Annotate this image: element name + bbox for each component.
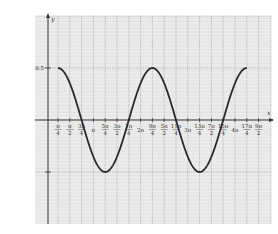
svg-text:4: 4 — [245, 130, 249, 136]
svg-text:4π: 4π — [231, 127, 238, 133]
svg-text:5π: 5π — [161, 123, 168, 129]
x-axis-label: x — [267, 109, 271, 117]
svg-text:π: π — [68, 123, 72, 129]
x-axis-arrow-icon — [269, 118, 274, 122]
svg-text:2: 2 — [210, 130, 214, 136]
svg-text:3π: 3π — [184, 127, 191, 133]
y-axis-label: y — [50, 15, 55, 23]
svg-text:9π: 9π — [149, 123, 156, 129]
svg-text:3π: 3π — [113, 123, 120, 129]
svg-text:13π: 13π — [194, 123, 205, 129]
svg-text:2: 2 — [162, 130, 166, 136]
svg-text:2: 2 — [68, 130, 72, 136]
svg-text:2π: 2π — [137, 127, 144, 133]
svg-text:4: 4 — [221, 130, 225, 136]
y-axis-arrow-icon — [46, 13, 50, 18]
svg-text:4: 4 — [174, 130, 178, 136]
svg-text:9π: 9π — [255, 123, 262, 129]
svg-text:11π: 11π — [171, 123, 182, 129]
svg-text:4: 4 — [80, 130, 84, 136]
svg-text:4: 4 — [198, 130, 202, 136]
svg-text:2: 2 — [115, 130, 119, 136]
svg-text:4: 4 — [103, 130, 107, 136]
svg-text:17π: 17π — [241, 123, 252, 129]
svg-text:5π: 5π — [102, 123, 109, 129]
x-tick-label: 2π — [137, 127, 144, 133]
svg-text:4: 4 — [127, 130, 131, 136]
svg-text:4: 4 — [56, 130, 60, 136]
y-tick-label: 0.5 — [35, 65, 44, 71]
svg-text:15π: 15π — [218, 123, 229, 129]
svg-text:7π: 7π — [208, 123, 215, 129]
cosine-chart: π4π23π4π5π43π27π42π9π45π211π43π13π47π215… — [0, 0, 278, 234]
x-tick-label: π — [92, 127, 96, 133]
y-tick-labels: 0.5 — [35, 65, 44, 71]
svg-text:π: π — [92, 127, 96, 133]
svg-text:π: π — [56, 123, 60, 129]
svg-text:4: 4 — [151, 130, 155, 136]
svg-text:2: 2 — [257, 130, 261, 136]
x-tick-label: 4π — [231, 127, 238, 133]
x-tick-label: 3π — [184, 127, 191, 133]
